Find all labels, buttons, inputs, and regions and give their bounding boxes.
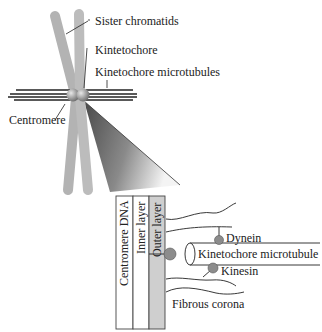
zoom-cone [84,101,180,192]
label-centromere-dna: Centromere DNA [118,200,130,286]
label-fibrous-corona: Fibrous corona [172,298,244,310]
label-inner-layer: Inner layer [135,202,147,254]
label-dynein: Dynein [226,232,261,244]
sister-chromatids [55,14,88,190]
label-outer-layer: Outer layer [151,203,163,257]
label-kinetochore-microtubules: Kinetochore microtubules [95,66,220,78]
label-kinetochore-microtubule: Kinetochore microtubule [198,248,318,260]
label-kinetochore: Kintetochore [95,44,158,56]
label-centromere: Centromere [9,114,66,126]
kinetochore-diagram [0,0,322,332]
label-kinesin: Kinesin [221,265,258,277]
label-sister-chromatids: Sister chromatids [95,15,179,27]
